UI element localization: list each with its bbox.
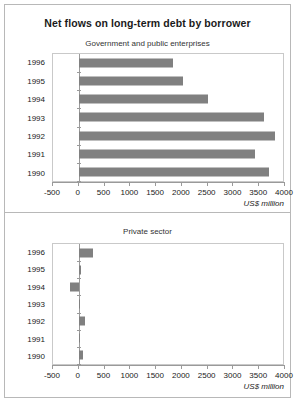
- x-axis-ticklabel-3000: 3000: [224, 371, 242, 380]
- x-axis-tick: [284, 182, 285, 186]
- chart-figure: Net flows on long-term debt by borrower …: [4, 4, 291, 398]
- y-axis-label-1991: 1991: [27, 150, 45, 159]
- x-axis-ticklabel-1000: 1000: [120, 188, 138, 197]
- y-axis-label-1994: 1994: [27, 282, 45, 291]
- x-axis-ticklabel--500: -500: [44, 188, 60, 197]
- x-axis-ticklabel-4000: 4000: [275, 188, 293, 197]
- x-axis-ticklabel-1500: 1500: [146, 188, 164, 197]
- y-axis-labels-top: 1996199519941993199219911990: [5, 53, 49, 182]
- bar-1996: [79, 248, 94, 257]
- x-axis-line: [52, 182, 284, 183]
- bar-1995: [79, 77, 184, 86]
- chart-bar-row: [53, 127, 283, 145]
- bar-1991: [79, 149, 255, 158]
- x-axis-tick: [207, 365, 208, 369]
- x-axis-tick: [232, 182, 233, 186]
- x-axis-ticklabel-0: 0: [76, 371, 80, 380]
- x-axis-ticklabel-3000: 3000: [224, 188, 242, 197]
- chart-bar-row: [53, 145, 283, 163]
- x-axis-tick: [155, 365, 156, 369]
- chart-bar-row: [53, 90, 283, 108]
- chart-bar-row: [53, 313, 283, 330]
- x-axis-ticklabel-2500: 2500: [198, 188, 216, 197]
- x-axis-line: [52, 365, 284, 366]
- panel-subtitle-government: Government and public enterprises: [5, 39, 290, 48]
- plot-area-government: [52, 53, 284, 182]
- x-axis-tick: [78, 182, 79, 186]
- x-axis-tick: [258, 365, 259, 369]
- chart-bar-row: [53, 261, 283, 278]
- y-axis-label-1992: 1992: [27, 317, 45, 326]
- chart-bar-row: [53, 278, 283, 295]
- x-axis-units-top: US$ million: [244, 199, 284, 208]
- x-axis-ticklabel-0: 0: [76, 188, 80, 197]
- chart-bar-row: [53, 347, 283, 364]
- x-axis-tick: [207, 182, 208, 186]
- bar-1993: [79, 299, 81, 308]
- x-axis-tick: [181, 182, 182, 186]
- y-axis-labels-bottom: 1996199519941993199219911990: [5, 243, 49, 365]
- x-axis-ticklabel--500: -500: [44, 371, 60, 380]
- x-axis-tick: [284, 365, 285, 369]
- y-axis-label-1995: 1995: [27, 265, 45, 274]
- x-axis-tick: [258, 182, 259, 186]
- bar-1996: [79, 59, 174, 68]
- x-axis-ticklabel-1000: 1000: [120, 371, 138, 380]
- bar-1992: [79, 131, 276, 140]
- y-axis-label-1996: 1996: [27, 58, 45, 67]
- x-axis-tick: [129, 182, 130, 186]
- y-axis-label-1990: 1990: [27, 352, 45, 361]
- y-axis-label-1993: 1993: [27, 113, 45, 122]
- plot-area-private: [52, 243, 284, 365]
- bar-1990: [79, 167, 269, 176]
- x-axis-ticklabel-2000: 2000: [172, 188, 190, 197]
- x-axis-ticklabel-2500: 2500: [198, 371, 216, 380]
- chart-bar-row: [53, 54, 283, 72]
- bar-1993: [79, 113, 264, 122]
- bar-1995: [79, 265, 81, 274]
- y-axis-label-1993: 1993: [27, 300, 45, 309]
- x-axis-tick: [232, 365, 233, 369]
- x-axis-tick: [52, 182, 53, 186]
- y-axis-label-1992: 1992: [27, 131, 45, 140]
- x-axis-ticklabel-3500: 3500: [249, 371, 267, 380]
- bar-1994: [70, 282, 79, 291]
- x-axis-ticklabel-500: 500: [97, 371, 110, 380]
- panel-government: Net flows on long-term debt by borrower …: [5, 5, 290, 213]
- panel-subtitle-private: Private sector: [5, 227, 290, 236]
- x-axis-ticklabel-500: 500: [97, 188, 110, 197]
- bar-1992: [79, 317, 85, 326]
- chart-bar-row: [53, 108, 283, 126]
- x-axis-tick: [104, 182, 105, 186]
- x-axis-tick: [155, 182, 156, 186]
- chart-bar-row: [53, 330, 283, 347]
- x-axis-tick: [52, 365, 53, 369]
- y-axis-label-1990: 1990: [27, 168, 45, 177]
- figure-title: Net flows on long-term debt by borrower: [5, 17, 290, 29]
- x-axis-tick: [129, 365, 130, 369]
- chart-bar-row: [53, 244, 283, 261]
- bar-1990: [79, 351, 83, 360]
- x-axis-tick: [104, 365, 105, 369]
- x-axis-ticklabel-4000: 4000: [275, 371, 293, 380]
- y-axis-label-1991: 1991: [27, 334, 45, 343]
- x-axis-ticklabel-1500: 1500: [146, 371, 164, 380]
- x-axis-tick: [181, 365, 182, 369]
- chart-bar-row: [53, 163, 283, 181]
- bar-1991: [79, 334, 80, 343]
- panel-private: Private sector 1996199519941993199219911…: [5, 213, 290, 398]
- y-axis-label-1995: 1995: [27, 76, 45, 85]
- x-axis-ticklabel-2000: 2000: [172, 371, 190, 380]
- x-axis-ticklabel-3500: 3500: [249, 188, 267, 197]
- chart-bar-row: [53, 72, 283, 90]
- y-axis-label-1994: 1994: [27, 95, 45, 104]
- x-axis-units-bottom: US$ million: [244, 382, 284, 391]
- chart-bar-row: [53, 295, 283, 312]
- bar-1994: [79, 95, 208, 104]
- x-axis-tick: [78, 365, 79, 369]
- y-axis-label-1996: 1996: [27, 247, 45, 256]
